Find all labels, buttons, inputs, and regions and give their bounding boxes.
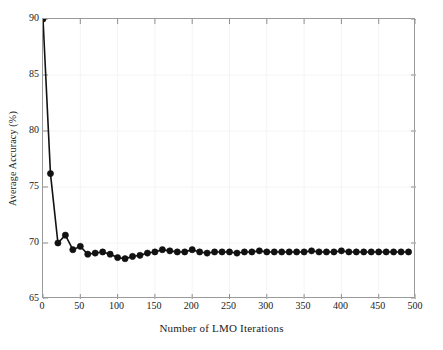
data-point-marker [129,253,135,259]
data-point-marker [331,249,337,255]
x-tick-label: 400 [320,301,360,311]
x-tick-label: 50 [59,301,99,311]
data-point-marker [353,249,359,255]
x-tick-label: 350 [283,301,323,311]
x-tick-label: 200 [171,301,211,311]
data-point-marker [211,249,217,255]
data-point-marker [152,249,158,255]
data-point-marker [264,249,270,255]
data-point-marker [398,249,404,255]
data-point-marker [174,249,180,255]
data-point-marker [137,252,143,258]
x-tick-label: 450 [358,301,398,311]
data-point-marker [204,250,210,256]
x-tick-label: 150 [134,301,174,311]
data-point-marker [197,249,203,255]
data-point-marker [234,250,240,256]
data-point-marker [100,249,106,255]
data-point-marker [301,249,307,255]
data-point-marker [241,249,247,255]
data-point-marker [383,249,389,255]
data-point-marker [47,170,53,176]
y-axis-title: Average Accuracy (%) [7,111,18,206]
data-point-marker [308,248,314,254]
data-point-marker [271,249,277,255]
data-point-marker [182,249,188,255]
y-tick-label: 70 [29,237,39,247]
plot-area [42,18,415,298]
data-point-marker [391,249,397,255]
data-point-marker [294,249,300,255]
data-point-marker [107,251,113,257]
data-point-marker [92,250,98,256]
data-point-marker [189,247,195,253]
data-point-marker [249,249,255,255]
data-point-marker [256,248,262,254]
data-point-marker [43,19,46,22]
y-tick-label: 80 [29,125,39,135]
data-point-marker [405,249,411,255]
data-series-line [43,19,409,259]
gridlines [43,19,416,299]
x-tick-label: 500 [395,301,435,311]
data-point-marker [219,249,225,255]
y-tick-label: 85 [29,69,39,79]
data-point-marker [316,249,322,255]
data-point-marker [368,249,374,255]
data-point-marker [167,248,173,254]
data-point-marker [70,247,76,253]
x-tick-label: 100 [97,301,137,311]
data-point-marker [279,249,285,255]
y-axis-title-container: Average Accuracy (%) [0,0,24,316]
data-series-markers [43,19,412,262]
data-point-marker [159,247,165,253]
data-point-marker [85,251,91,257]
data-point-marker [115,254,121,260]
data-point-marker [346,249,352,255]
data-point-marker [361,249,367,255]
data-point-marker [376,249,382,255]
data-point-marker [226,249,232,255]
data-point-marker [77,243,83,249]
figure-canvas: Average Accuracy (%) 657075808590 050100… [0,0,443,350]
data-point-marker [62,232,68,238]
line-chart-svg [43,19,416,299]
data-point-marker [144,250,150,256]
x-tick-label: 300 [246,301,286,311]
y-tick-label: 75 [29,181,39,191]
data-point-marker [286,249,292,255]
y-tick-label: 90 [29,13,39,23]
x-axis-title: Number of LMO Iterations [0,322,443,334]
x-tick-label: 0 [22,301,62,311]
data-point-marker [338,248,344,254]
data-point-marker [122,256,128,262]
data-point-marker [323,249,329,255]
data-point-marker [55,240,61,246]
x-tick-label: 250 [209,301,249,311]
